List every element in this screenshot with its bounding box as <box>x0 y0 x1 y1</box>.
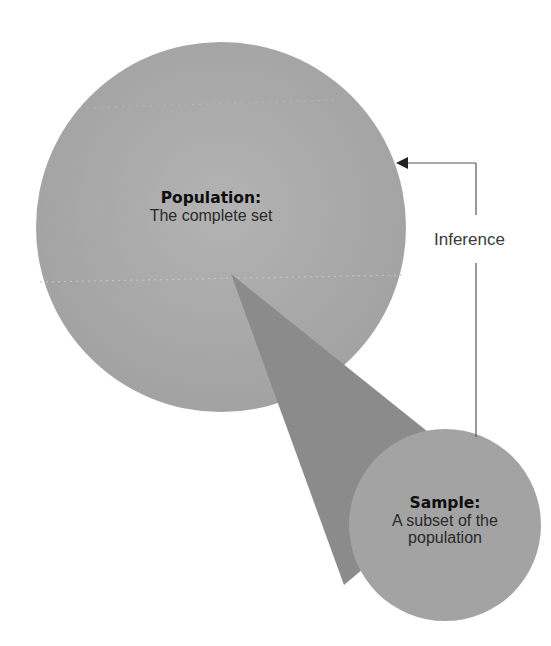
population-description: The complete set <box>101 207 321 224</box>
arrowhead-left-icon <box>396 157 408 169</box>
sample-label: Sample: A subset of the population <box>362 495 528 546</box>
sample-title: Sample: <box>362 495 528 512</box>
sample-description-line1: A subset of the <box>362 512 528 529</box>
population-circle <box>36 42 406 412</box>
population-title: Population: <box>101 190 321 207</box>
inference-label: Inference <box>434 230 524 250</box>
sample-description-line2: population <box>362 529 528 546</box>
diagram-canvas <box>0 0 551 646</box>
population-label: Population: The complete set <box>101 190 321 224</box>
inference-arrow <box>396 157 476 437</box>
